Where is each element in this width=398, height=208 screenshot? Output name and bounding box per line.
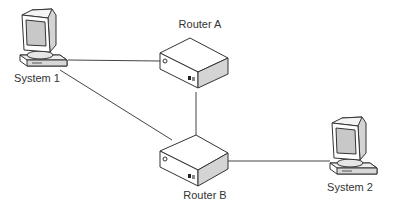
node-label-system1: System 1 — [14, 72, 60, 84]
router-icon-router-a — [160, 38, 228, 88]
node-label-system2: System 2 — [327, 181, 373, 193]
router-icon-router-b — [160, 135, 228, 186]
network-diagram: System 1 Router A Router B System 2 — [0, 0, 398, 208]
node-label-router-b: Router B — [183, 189, 226, 201]
computer-icon-system1 — [20, 9, 67, 66]
link-system1-routerA — [68, 60, 160, 61]
node-label-router-a: Router A — [179, 18, 222, 30]
link-system1-routerB — [60, 70, 172, 140]
diagram-canvas — [0, 0, 398, 208]
computer-icon-system2 — [330, 117, 377, 174]
